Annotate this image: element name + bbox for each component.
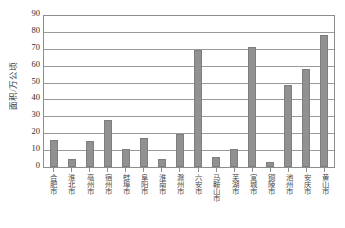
x-axis-tick-mark-slot bbox=[135, 168, 153, 172]
x-axis-tick-labels: 合肥市淮北市亳州市宿州市蚌埠市阜阳市淮南市滁州市六安市马鞍山市芜湖市宣城市铜陵市… bbox=[43, 173, 335, 225]
bar[interactable] bbox=[158, 159, 166, 167]
x-axis-tick-mark bbox=[252, 168, 253, 172]
x-axis-tick-label: 合肥市 bbox=[49, 173, 57, 194]
bar-slot bbox=[81, 15, 99, 167]
bar[interactable] bbox=[140, 138, 148, 167]
x-axis-tick-label-slot: 滁州市 bbox=[171, 173, 189, 225]
bar[interactable] bbox=[86, 141, 94, 167]
x-axis-tick-label: 淮南市 bbox=[158, 173, 166, 194]
x-axis-tick-marks bbox=[43, 168, 335, 172]
bar-slot bbox=[63, 15, 81, 167]
x-axis-tick-mark bbox=[125, 168, 126, 172]
x-axis-tick-label: 铜陵市 bbox=[267, 173, 275, 194]
x-axis-tick-label-slot: 马鞍山市 bbox=[207, 173, 225, 225]
x-axis-tick-mark-slot bbox=[44, 168, 62, 172]
bar-slot bbox=[171, 15, 189, 167]
bar-slot bbox=[225, 15, 243, 167]
bar-slot bbox=[45, 15, 63, 167]
bar[interactable] bbox=[230, 149, 238, 167]
x-axis-tick-label: 黄山市 bbox=[321, 173, 329, 194]
bar[interactable] bbox=[284, 85, 292, 167]
x-axis-tick-mark-slot bbox=[262, 168, 280, 172]
x-axis-tick-label: 滁州市 bbox=[176, 173, 184, 194]
x-axis-tick-mark bbox=[288, 168, 289, 172]
x-axis-tick-label-slot: 亳州市 bbox=[80, 173, 98, 225]
x-axis-tick-label: 池州市 bbox=[285, 173, 293, 194]
x-axis-tick-label-slot: 淮北市 bbox=[62, 173, 80, 225]
y-axis-tick-label: 30 bbox=[32, 110, 41, 118]
bar[interactable] bbox=[194, 50, 202, 167]
x-axis-tick-label: 安庆市 bbox=[303, 173, 311, 194]
x-axis-tick-label-slot: 芜湖市 bbox=[225, 173, 243, 225]
bar-slot bbox=[315, 15, 333, 167]
x-axis-tick-label: 淮北市 bbox=[67, 173, 75, 194]
x-axis-tick-label: 宿州市 bbox=[104, 173, 112, 194]
y-axis-tick-label: 80 bbox=[32, 26, 41, 34]
x-axis-tick-mark-slot bbox=[80, 168, 98, 172]
bar[interactable] bbox=[176, 134, 184, 167]
x-axis-tick-label-slot: 宣城市 bbox=[243, 173, 261, 225]
y-axis-tick-label: 10 bbox=[32, 144, 41, 152]
bar[interactable] bbox=[302, 69, 310, 167]
x-axis-tick-label-slot: 合肥市 bbox=[44, 173, 62, 225]
x-axis-tick-mark-slot bbox=[62, 168, 80, 172]
bar[interactable] bbox=[122, 149, 130, 167]
x-axis-tick-mark-slot bbox=[117, 168, 135, 172]
x-axis-tick-label: 马鞍山市 bbox=[212, 173, 220, 201]
bar-slot bbox=[243, 15, 261, 167]
bar-slot bbox=[117, 15, 135, 167]
x-axis-tick-mark-slot bbox=[171, 168, 189, 172]
x-axis-tick-label: 阜阳市 bbox=[140, 173, 148, 194]
x-axis-tick-label-slot: 六安市 bbox=[189, 173, 207, 225]
bar-slot bbox=[261, 15, 279, 167]
x-axis-tick-mark-slot bbox=[189, 168, 207, 172]
x-axis-tick-mark-slot bbox=[280, 168, 298, 172]
x-axis-tick-mark-slot bbox=[298, 168, 316, 172]
y-axis-tick-label: 40 bbox=[32, 93, 41, 101]
x-axis-tick-mark bbox=[179, 168, 180, 172]
x-axis-tick-label-slot: 阜阳市 bbox=[135, 173, 153, 225]
y-axis-tick-label: 90 bbox=[32, 9, 41, 17]
bar-slot bbox=[153, 15, 171, 167]
bar[interactable] bbox=[320, 35, 328, 167]
bar[interactable] bbox=[50, 140, 58, 167]
bar-slot bbox=[189, 15, 207, 167]
x-axis-tick-mark bbox=[198, 168, 199, 172]
bar[interactable] bbox=[104, 120, 112, 167]
bar[interactable] bbox=[68, 159, 76, 167]
y-axis-tick-label: 0 bbox=[36, 161, 40, 169]
x-axis-tick-label: 宣城市 bbox=[249, 173, 257, 194]
x-axis-tick-mark bbox=[161, 168, 162, 172]
x-axis-tick-label: 六安市 bbox=[194, 173, 202, 194]
x-axis-tick-label-slot: 蚌埠市 bbox=[117, 173, 135, 225]
y-axis-tick-label: 70 bbox=[32, 43, 41, 51]
x-axis-tick-mark bbox=[216, 168, 217, 172]
x-axis-tick-mark bbox=[71, 168, 72, 172]
bar-slot bbox=[279, 15, 297, 167]
x-axis-tick-label-slot: 淮南市 bbox=[153, 173, 171, 225]
x-axis-tick-label: 芜湖市 bbox=[231, 173, 239, 194]
x-axis-tick-label-slot: 黄山市 bbox=[316, 173, 334, 225]
bar[interactable] bbox=[248, 47, 256, 167]
bar-series bbox=[44, 15, 334, 167]
x-axis-tick-mark bbox=[306, 168, 307, 172]
bar[interactable] bbox=[212, 157, 220, 167]
x-axis-tick-mark-slot bbox=[316, 168, 334, 172]
bar[interactable] bbox=[266, 162, 274, 167]
bar-chart: 面积/万公顷 9080706050403020100 合肥市淮北市亳州市宿州市蚌… bbox=[0, 0, 345, 228]
x-axis-tick-mark bbox=[107, 168, 108, 172]
x-axis-tick-label-slot: 安庆市 bbox=[298, 173, 316, 225]
bar-slot bbox=[99, 15, 117, 167]
bar-slot bbox=[135, 15, 153, 167]
x-axis-tick-mark-slot bbox=[243, 168, 261, 172]
x-axis-tick-mark bbox=[53, 168, 54, 172]
y-axis-tick-label: 20 bbox=[32, 127, 41, 135]
x-axis-tick-mark bbox=[270, 168, 271, 172]
y-axis-tick-label: 60 bbox=[32, 60, 41, 68]
bar-slot bbox=[207, 15, 225, 167]
y-axis-tick-label: 50 bbox=[32, 77, 41, 85]
x-axis-tick-mark bbox=[324, 168, 325, 172]
x-axis-tick-label: 亳州市 bbox=[86, 173, 94, 194]
x-axis-tick-label: 蚌埠市 bbox=[122, 173, 130, 194]
x-axis-tick-mark bbox=[143, 168, 144, 172]
